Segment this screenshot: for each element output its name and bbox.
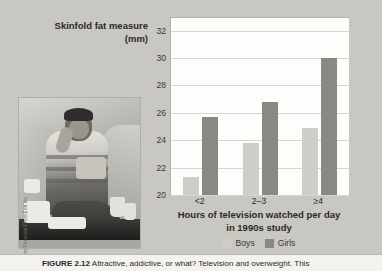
y-axis-tick-label: 20	[156, 190, 166, 200]
photo-figure: © Tony Freeman/PhotoEdit Inc.	[18, 97, 141, 249]
legend-item-girls: Girls	[265, 238, 296, 248]
y-axis-tick-label: 24	[156, 135, 166, 145]
x-axis-label-line2: in 1990s study	[226, 222, 291, 233]
y-axis-tick-label: 30	[156, 53, 166, 63]
plot-area	[170, 17, 349, 196]
y-axis-label: Skinfold fat measure (mm)	[52, 20, 148, 45]
x-axis-tick-label: ≥4	[314, 196, 324, 206]
y-axis-tick-label: 22	[156, 163, 166, 173]
photo-credit: © Tony Freeman/PhotoEdit Inc.	[23, 144, 28, 264]
figure-caption-text: Attractive, addictive, or what? Televisi…	[92, 259, 310, 268]
chart-legend: BoysGirls	[156, 238, 362, 248]
caption-bar: FIGURE 2.12 Attractive, addictive, or wh…	[0, 254, 382, 271]
legend-label-girls: Girls	[278, 238, 296, 248]
photo-shirt-stripe	[46, 179, 108, 183]
bar-boys-3	[302, 128, 318, 195]
y-axis-tick-label: 32	[156, 26, 166, 36]
legend-label-boys: Boys	[236, 238, 255, 248]
photo-person-hair	[64, 108, 93, 121]
bar-girls-1	[202, 117, 218, 195]
photo-floor	[18, 240, 141, 249]
boy-eating-snacks-on-couch-photo	[18, 97, 141, 249]
figure-panel: © Tony Freeman/PhotoEdit Inc. Skinfold f…	[0, 0, 382, 271]
bar-group-container	[171, 17, 349, 195]
y-axis-tick-label: 28	[156, 80, 166, 90]
legend-item-boys: Boys	[223, 238, 255, 248]
x-axis-tick-label: <2	[195, 196, 205, 206]
x-axis-label-line1: Hours of television watched per day	[178, 209, 341, 220]
bar-chart: Skinfold fat measure (mm) 20222426283032…	[150, 14, 368, 254]
photo-snack-bag	[76, 157, 106, 179]
y-axis-tick-label: 26	[156, 108, 166, 118]
bar-girls-2	[262, 102, 278, 195]
photo-drink-cup	[110, 197, 125, 217]
bar-girls-3	[321, 58, 337, 195]
photo-drink-cup	[124, 203, 136, 220]
legend-swatch-boys	[223, 239, 232, 248]
x-axis-tick-label: 2–3	[252, 196, 266, 206]
photo-food-debris	[48, 217, 86, 229]
figure-caption-number: FIGURE 2.12	[42, 259, 90, 268]
photo-food-debris	[24, 201, 50, 223]
legend-swatch-girls	[265, 239, 274, 248]
bar-boys-1	[183, 177, 199, 195]
x-axis-label: Hours of television watched per day in 1…	[156, 209, 362, 234]
figure-caption: FIGURE 2.12 Attractive, addictive, or wh…	[42, 259, 309, 268]
bar-boys-2	[243, 143, 259, 195]
